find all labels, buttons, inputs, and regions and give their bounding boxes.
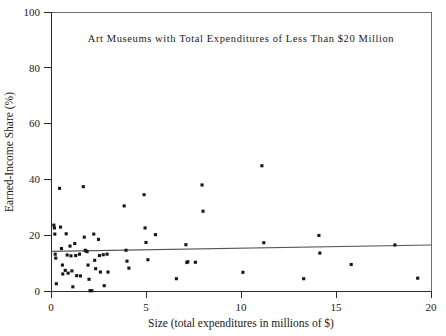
data-point <box>54 253 57 256</box>
data-point <box>144 241 147 244</box>
data-point <box>70 269 73 272</box>
data-point <box>186 260 189 263</box>
data-point <box>61 264 64 267</box>
data-point <box>175 277 178 280</box>
y-tick-label: 100 <box>24 6 41 18</box>
data-point <box>74 254 77 257</box>
data-point <box>66 253 69 256</box>
data-point <box>127 267 130 270</box>
data-point <box>143 193 146 196</box>
data-point <box>99 270 102 273</box>
data-point <box>106 270 109 273</box>
data-point <box>302 277 305 280</box>
data-point <box>87 264 90 267</box>
data-point <box>69 254 72 257</box>
data-point <box>262 241 265 244</box>
data-point <box>154 233 157 236</box>
data-point <box>125 260 128 263</box>
data-point <box>71 285 74 288</box>
data-point <box>416 277 419 280</box>
data-point <box>260 164 263 167</box>
data-point <box>102 253 105 256</box>
y-tick-label: 0 <box>35 285 41 297</box>
data-point <box>68 245 71 248</box>
data-point <box>61 272 64 275</box>
data-point <box>393 243 396 246</box>
data-point <box>184 243 187 246</box>
x-axis-title: Size (total expenditures in millions of … <box>148 317 334 330</box>
data-point <box>103 284 106 287</box>
x-tick-label: 20 <box>426 301 438 313</box>
data-point <box>86 250 89 253</box>
data-point <box>73 242 76 245</box>
data-point <box>78 253 81 256</box>
data-point <box>67 272 70 275</box>
y-tick-label: 60 <box>29 117 41 129</box>
data-point <box>54 257 57 260</box>
data-point <box>97 238 100 241</box>
data-point <box>94 267 97 270</box>
data-point <box>98 254 101 257</box>
data-point <box>90 289 93 292</box>
data-point <box>53 233 56 236</box>
data-point <box>106 253 109 256</box>
x-tick-label: 5 <box>143 301 149 313</box>
data-point <box>201 210 204 213</box>
x-tick-label: 10 <box>236 301 248 313</box>
data-point <box>144 226 147 229</box>
data-point <box>317 234 320 237</box>
data-point <box>75 274 78 277</box>
data-point <box>146 258 149 261</box>
data-point <box>93 259 96 262</box>
data-point <box>82 185 85 188</box>
data-point <box>52 224 55 227</box>
data-point <box>55 282 58 285</box>
data-point <box>65 232 68 235</box>
chart-title: Art Museums with Total Expenditures of L… <box>88 33 395 44</box>
chart-canvas: 020406080100 05101520 Art Museums with T… <box>0 0 446 336</box>
data-point <box>123 204 126 207</box>
y-tick-label: 80 <box>29 62 41 74</box>
data-point <box>59 226 62 229</box>
x-tick-label: 15 <box>331 301 343 313</box>
data-point <box>318 252 321 255</box>
scatter-plot-figure: 020406080100 05101520 Art Museums with T… <box>0 0 446 336</box>
data-point <box>194 261 197 264</box>
data-point <box>201 183 204 186</box>
data-point <box>64 269 67 272</box>
chart-background <box>0 0 446 336</box>
data-point <box>92 233 95 236</box>
data-point <box>83 236 86 239</box>
data-point <box>125 249 128 252</box>
data-point <box>79 274 82 277</box>
y-axis-title: Earned-Income Share (%) <box>3 92 16 212</box>
data-point <box>58 187 61 190</box>
y-tick-label: 40 <box>29 173 41 185</box>
x-tick-label: 0 <box>48 301 54 313</box>
y-tick-label: 20 <box>29 229 41 241</box>
data-point <box>60 247 63 250</box>
data-point <box>350 263 353 266</box>
data-point <box>87 278 90 281</box>
data-point <box>241 271 244 274</box>
data-point <box>53 226 56 229</box>
